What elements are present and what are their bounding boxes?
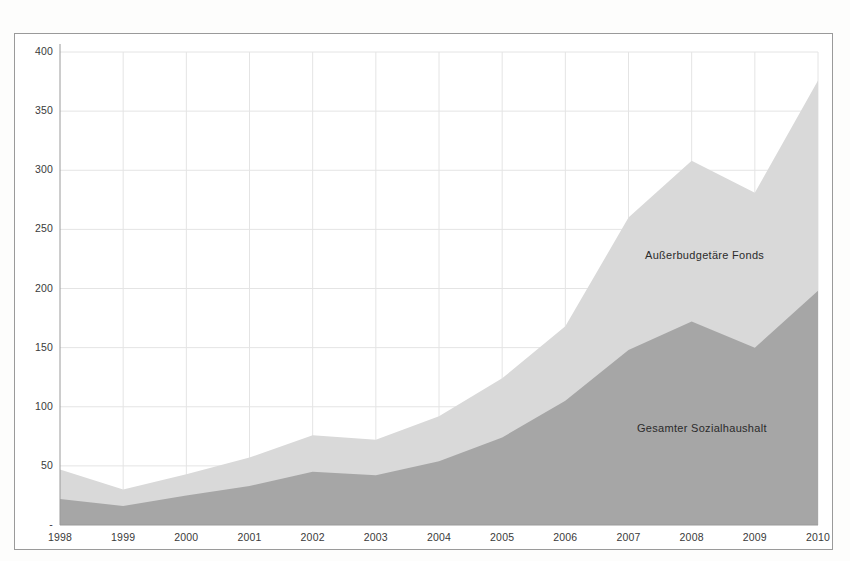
y-tick-label: 300 <box>19 163 53 175</box>
x-tick-label: 2010 <box>796 531 840 543</box>
area-chart-plot <box>0 0 850 561</box>
x-tick-label: 2005 <box>480 531 524 543</box>
series-label-ausserbudgetaere-fonds: Außerbudgetäre Fonds <box>645 249 764 261</box>
y-tick-label: 400 <box>19 45 53 57</box>
series-label-gesamter-sozialhaushalt: Gesamter Sozialhaushalt <box>637 422 767 434</box>
y-tick-label: 200 <box>19 282 53 294</box>
x-tick-label: 2008 <box>670 531 714 543</box>
x-tick-label: 2002 <box>291 531 335 543</box>
y-tick-label: 250 <box>19 222 53 234</box>
x-tick-label: 2001 <box>228 531 272 543</box>
x-tick-label: 2006 <box>543 531 587 543</box>
x-tick-label: 1999 <box>101 531 145 543</box>
x-tick-label: 2007 <box>607 531 651 543</box>
y-tick-label: - <box>19 518 53 530</box>
x-tick-label: 2009 <box>733 531 777 543</box>
x-tick-label: 2000 <box>164 531 208 543</box>
y-tick-label: 50 <box>19 459 53 471</box>
y-tick-label: 150 <box>19 341 53 353</box>
x-tick-label: 1998 <box>38 531 82 543</box>
x-tick-label: 2003 <box>354 531 398 543</box>
x-tick-label: 2004 <box>417 531 461 543</box>
y-tick-label: 350 <box>19 104 53 116</box>
y-tick-label: 100 <box>19 400 53 412</box>
